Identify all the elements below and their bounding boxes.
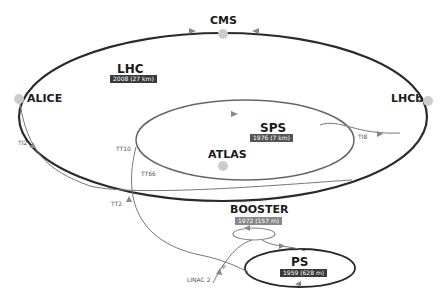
tt2-label: TT2 [111, 200, 122, 207]
alice-node[interactable] [14, 94, 24, 104]
tt66-label: TT66 [141, 170, 156, 177]
sps-badge: 1976 (7 km) [250, 134, 293, 142]
lhcb-node[interactable] [423, 96, 433, 106]
proton-label: p [222, 262, 226, 269]
cms-node[interactable] [218, 29, 228, 39]
linac-line [213, 240, 252, 283]
sps-ring [136, 100, 354, 180]
ti2-label: TI2 [18, 139, 27, 146]
linac2-label: LINAC 2 [187, 276, 211, 283]
atlas-node[interactable] [218, 161, 228, 171]
ti2-line [20, 104, 352, 191]
atlas-label: ATLAS [208, 149, 247, 161]
alice-label: ALICE [27, 93, 62, 105]
arrow-icon [279, 243, 285, 249]
arrow-icon [377, 131, 383, 137]
lhc-ring [19, 33, 427, 201]
booster-badge: 1972 (157 m) [235, 217, 282, 225]
ti8-label: TI8 [358, 133, 367, 140]
arrow-icon [126, 196, 132, 202]
arrow-icon [231, 111, 238, 117]
lhcb-label: LHCb [391, 93, 423, 105]
ti8-line [320, 123, 400, 133]
cms-label: CMS [210, 15, 237, 27]
ps-badge: 1959 (628 m) [280, 269, 327, 277]
tt10-label: TT10 [116, 145, 131, 152]
arrow-icon [244, 225, 250, 231]
ps-label: PS [291, 256, 308, 268]
booster-label: BOOSTER [230, 204, 289, 216]
lhc-badge: 2008 (27 km) [110, 75, 157, 83]
sps-label: SPS [260, 122, 286, 134]
booster-ring [233, 228, 275, 240]
lhc-label: LHC [117, 63, 144, 75]
